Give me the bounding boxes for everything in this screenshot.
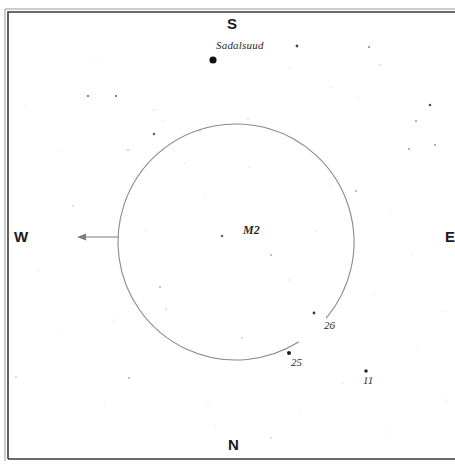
field-star	[204, 196, 205, 197]
field-star	[72, 205, 74, 207]
star-label-11: 11	[363, 375, 373, 386]
star-marker-11	[364, 369, 368, 373]
field-star	[270, 437, 272, 439]
field-star	[379, 64, 380, 65]
cardinal-north: N	[228, 437, 239, 452]
field-star	[374, 293, 375, 294]
field-star	[429, 104, 432, 107]
field-star	[112, 319, 113, 320]
star-chart: S N W E Sadalsuud M2 26 25 11	[0, 0, 455, 471]
field-star	[330, 86, 331, 87]
field-star	[408, 148, 410, 150]
field-star	[411, 253, 412, 254]
star-label-m2: M2	[243, 224, 260, 236]
star-label-25: 25	[291, 357, 302, 368]
field-star	[61, 149, 62, 150]
field-star	[415, 120, 417, 122]
field-star	[387, 431, 388, 432]
field-star	[104, 404, 105, 405]
star-marker-25	[287, 351, 291, 355]
field-star	[87, 95, 89, 97]
field-star	[59, 329, 60, 330]
field-star	[127, 149, 129, 151]
cardinal-west: W	[14, 229, 29, 244]
field-star	[270, 254, 272, 256]
field-star	[368, 46, 370, 48]
field-star	[159, 286, 161, 288]
chart-background	[0, 0, 455, 471]
star-label-sadalsuud: Sadalsuud	[216, 40, 264, 51]
field-star	[241, 337, 243, 339]
field-star	[389, 212, 390, 213]
field-star	[184, 162, 185, 163]
field-star	[289, 279, 290, 280]
field-star	[356, 98, 357, 99]
field-star	[162, 120, 163, 121]
field-star	[299, 411, 300, 412]
field-star	[153, 133, 155, 135]
star-marker-sadalsuud	[209, 56, 216, 63]
field-star	[434, 144, 436, 146]
field-star	[207, 405, 208, 406]
field-star	[37, 269, 38, 270]
field-star	[128, 377, 130, 379]
field-star	[214, 424, 215, 425]
cardinal-east: E	[445, 229, 455, 244]
field-star	[248, 166, 249, 167]
field-star	[330, 184, 331, 185]
star-label-26: 26	[324, 320, 335, 331]
cardinal-south: S	[227, 16, 238, 31]
field-star	[289, 67, 290, 68]
field-star	[115, 95, 117, 97]
field-star	[355, 190, 357, 192]
field-star	[247, 118, 248, 119]
field-star	[145, 229, 146, 230]
sky-canvas	[0, 0, 455, 471]
field-star	[165, 308, 167, 310]
field-star	[25, 104, 26, 105]
field-star	[342, 382, 343, 383]
field-star	[446, 399, 447, 400]
field-star	[315, 230, 316, 231]
field-star	[442, 310, 443, 311]
field-star	[417, 348, 418, 349]
star-marker-m2	[221, 235, 224, 238]
field-star	[95, 55, 96, 56]
field-star	[15, 376, 17, 378]
field-star	[296, 45, 299, 48]
field-star	[199, 130, 201, 132]
star-marker-26	[313, 312, 316, 315]
field-star	[153, 109, 154, 110]
